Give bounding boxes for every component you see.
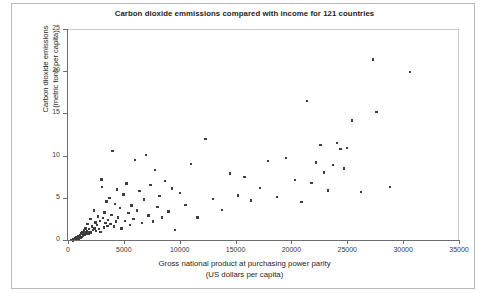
data-point	[158, 195, 160, 197]
data-point	[161, 216, 163, 218]
data-point	[127, 212, 129, 214]
data-point	[346, 147, 348, 149]
chart-figure: Carbon dioxide emmissions compared with …	[0, 0, 489, 293]
y-axis-line	[67, 29, 68, 241]
data-point	[129, 224, 131, 226]
data-point	[97, 215, 99, 217]
y-tick-label: 0	[20, 235, 60, 242]
data-point	[300, 201, 302, 203]
data-point	[110, 214, 112, 216]
data-point	[134, 159, 136, 161]
y-tick-label: 5	[20, 193, 60, 200]
y-tick-label: 20	[20, 66, 60, 73]
chart-title: Carbon dioxide emmissions compared with …	[0, 9, 489, 18]
x-tick	[68, 240, 69, 244]
data-point	[138, 190, 140, 192]
data-point	[113, 225, 115, 227]
x-tick-label: 25000	[317, 246, 377, 253]
data-point	[93, 209, 95, 211]
data-point	[125, 182, 127, 184]
x-axis-label-line2: (US dollars per capita)	[0, 270, 489, 281]
y-tick	[63, 156, 68, 157]
data-point	[108, 197, 110, 199]
data-point	[259, 187, 261, 189]
x-axis-label-line1: Gross national product at purchasing pow…	[0, 259, 489, 270]
x-tick	[459, 240, 460, 244]
data-point	[276, 196, 278, 198]
x-tick-label: 0	[38, 246, 98, 253]
data-point	[184, 204, 186, 206]
data-point	[229, 172, 231, 174]
data-point	[120, 227, 122, 229]
data-point	[106, 225, 108, 227]
data-point	[109, 223, 111, 225]
data-point	[372, 58, 374, 60]
data-point	[343, 167, 345, 169]
data-point	[204, 138, 206, 140]
data-point	[145, 154, 147, 156]
data-point	[117, 216, 119, 218]
x-tick-label: 15000	[206, 246, 266, 253]
x-axis-line	[67, 240, 460, 241]
x-tick	[180, 240, 181, 244]
data-point	[323, 171, 325, 173]
data-point	[327, 189, 329, 191]
data-point	[179, 192, 181, 194]
data-point	[212, 198, 214, 200]
data-point	[132, 218, 134, 220]
data-point	[196, 216, 198, 218]
data-point	[105, 200, 107, 202]
data-point	[136, 209, 138, 211]
data-point	[152, 220, 154, 222]
data-point	[102, 217, 104, 219]
data-point	[115, 220, 117, 222]
x-tick	[403, 240, 404, 244]
data-point	[315, 161, 317, 163]
data-point	[310, 182, 312, 184]
y-tick	[63, 29, 68, 30]
data-point	[90, 231, 92, 233]
data-point	[103, 226, 105, 228]
plot-area	[68, 29, 459, 240]
data-point	[114, 203, 116, 205]
x-tick-label: 35000	[429, 246, 489, 253]
data-point	[339, 148, 341, 150]
data-point	[167, 210, 169, 212]
data-point	[99, 231, 101, 233]
data-point	[360, 191, 362, 193]
data-point	[221, 209, 223, 211]
data-point	[285, 157, 287, 159]
x-tick	[236, 240, 237, 244]
data-point	[149, 184, 151, 186]
x-tick-label: 5000	[94, 246, 154, 253]
y-tick	[63, 198, 68, 199]
data-point	[336, 142, 338, 144]
data-point	[147, 214, 149, 216]
data-point	[319, 144, 321, 146]
data-point	[101, 186, 103, 188]
data-point	[375, 111, 377, 113]
y-axis-label-line2: (metric tons per capita)	[51, 0, 61, 149]
x-axis-label: Gross national product at purchasing pow…	[0, 259, 489, 280]
data-point	[237, 194, 239, 196]
data-point	[190, 163, 192, 165]
data-point	[100, 178, 102, 180]
data-point	[243, 176, 245, 178]
y-tick-label: 10	[20, 151, 60, 158]
data-point	[332, 164, 334, 166]
data-point	[154, 169, 156, 171]
data-point	[116, 188, 118, 190]
data-point	[294, 179, 296, 181]
data-point	[306, 100, 308, 102]
data-point	[143, 198, 145, 200]
data-point	[111, 150, 113, 152]
y-tick	[63, 71, 68, 72]
data-point	[164, 180, 166, 182]
data-point	[107, 219, 109, 221]
data-point	[119, 207, 121, 209]
data-point	[103, 211, 105, 213]
data-point	[99, 220, 101, 222]
data-point	[389, 186, 391, 188]
x-tick-label: 10000	[150, 246, 210, 253]
data-point	[267, 160, 269, 162]
